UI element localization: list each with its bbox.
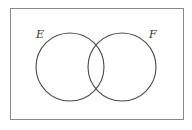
set-e-label: E [35,28,44,41]
venn-diagram: E F [0,0,192,130]
set-e-circle [36,33,104,101]
set-f-label: F [148,28,157,41]
set-f-circle [88,33,156,101]
